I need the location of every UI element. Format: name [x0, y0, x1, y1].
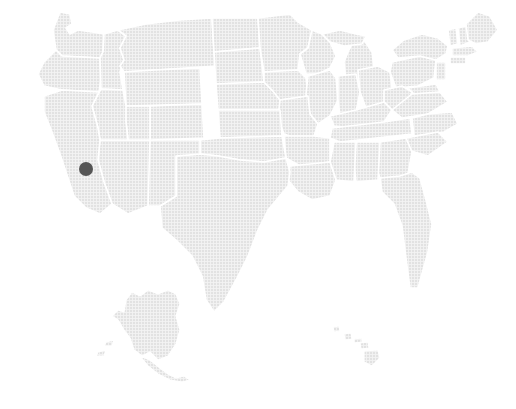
- location-marker-california[interactable]: [79, 162, 93, 176]
- state-vermont: [448, 28, 458, 46]
- state-north-dakota: [212, 18, 260, 52]
- state-colorado: [150, 104, 204, 140]
- us-map-svg: [0, 0, 516, 409]
- state-south-dakota: [214, 48, 264, 84]
- state-connecticut: [450, 57, 466, 64]
- hawaii-kauai: [333, 326, 340, 332]
- hawaii-molokai: [354, 338, 362, 343]
- hawaii-oahu: [344, 333, 352, 340]
- markers-group: [79, 162, 93, 176]
- state-montana: [118, 18, 216, 72]
- state-wyoming: [124, 68, 202, 106]
- state-idaho: [100, 30, 126, 90]
- hawaii-maui: [360, 342, 369, 349]
- state-arkansas: [284, 136, 330, 166]
- map-container: [0, 0, 516, 409]
- state-alabama: [354, 142, 380, 182]
- state-new-jersey: [436, 62, 446, 80]
- state-kansas: [218, 110, 282, 138]
